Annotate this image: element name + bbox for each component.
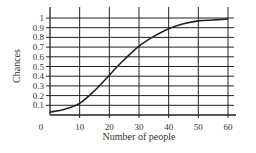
y-tick-label: 0.9	[33, 23, 45, 33]
x-tick-label: 60	[224, 122, 234, 132]
x-tick-label: 50	[194, 122, 204, 132]
y-axis-label: Chances	[11, 49, 22, 83]
birthday-chances-chart: 0.10.20.30.40.50.60.70.80.91 01020304050…	[0, 0, 256, 153]
y-tick-label: 0.4	[33, 71, 45, 81]
y-tick-label: 1	[40, 13, 45, 23]
x-tick-label: 10	[75, 122, 85, 132]
y-tick-label: 0.5	[33, 62, 45, 72]
grid-lines	[46, 7, 236, 118]
y-tick-label: 0.8	[33, 32, 45, 42]
y-axis-ticks: 0.10.20.30.40.50.60.70.80.91	[33, 13, 45, 110]
y-tick-label: 0.1	[33, 100, 44, 110]
x-tick-label: 0	[39, 122, 44, 132]
y-tick-label: 0.2	[33, 91, 44, 101]
y-tick-label: 0.3	[33, 81, 45, 91]
x-axis-label: Number of people	[103, 131, 176, 142]
y-tick-label: 0.6	[33, 52, 45, 62]
y-tick-label: 0.7	[33, 42, 45, 52]
